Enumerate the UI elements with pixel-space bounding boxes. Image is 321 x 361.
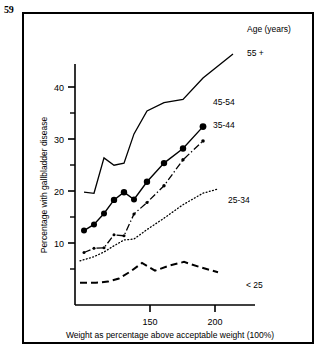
figure-frame xyxy=(22,12,314,344)
page-number: 59 xyxy=(4,4,14,15)
